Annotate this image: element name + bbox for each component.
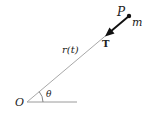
mass-label: m — [132, 17, 142, 28]
mass-point-dot — [127, 14, 131, 18]
radius-label: r(t) — [62, 45, 79, 55]
point-label: P — [117, 6, 125, 18]
tension-label: T — [102, 39, 109, 49]
diagram-canvas: P m T r(t) θ O — [0, 0, 150, 120]
origin-label: O — [15, 97, 24, 108]
angle-arc — [39, 92, 43, 102]
angle-label: θ — [46, 90, 51, 99]
